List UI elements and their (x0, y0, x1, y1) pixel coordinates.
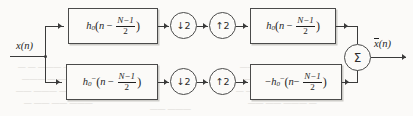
lower-synthesis-in-arrow (243, 79, 247, 85)
lower-upsampler-label: ↑2 (216, 76, 229, 87)
input-split-bus (45, 26, 46, 82)
summation-node[interactable]: Σ (344, 44, 371, 71)
sigma-icon: Σ (354, 51, 362, 65)
input-wire (10, 56, 46, 57)
lower-summer-in-arrow (345, 79, 349, 85)
lower-analysis-filter-block[interactable]: h0−(n − N−12) (66, 64, 158, 100)
upper-analysis-filter-block[interactable]: h0(n − N−12) (68, 8, 158, 44)
upper-synthesis-filter-expression: h0(n − N−12) (266, 16, 320, 36)
upper-upsampler-label: ↑2 (216, 20, 229, 31)
upper-upsampler-in-arrow (203, 23, 207, 29)
split-node-dot (44, 55, 47, 58)
input-label: x(n) (16, 40, 33, 51)
lower-downsampler-in-arrow (164, 79, 168, 85)
lower-upsampler-2[interactable]: ↑2 (209, 68, 236, 95)
lower-branch-arrow (56, 79, 60, 85)
upper-synthesis-in-arrow (243, 23, 247, 29)
lower-analysis-filter-expression: h0−(n − N−12) (83, 72, 141, 92)
lower-downsampler-2[interactable]: ↓2 (170, 68, 197, 95)
upper-downsampler-label: ↓2 (177, 20, 190, 31)
upper-summer-drop-wire (357, 26, 358, 44)
bleed-text: —— ——— (150, 104, 191, 113)
lower-downsampler-label: ↓2 (177, 76, 190, 87)
upper-synthesis-filter-block[interactable]: h0(n − N−12) (250, 8, 336, 44)
upper-downsampler-in-arrow (164, 23, 168, 29)
output-label: x(n) (374, 38, 391, 50)
upper-analysis-filter-expression: h0(n − N−12) (86, 16, 140, 36)
upper-upsampler-2[interactable]: ↑2 (209, 12, 236, 39)
lower-upsampler-in-arrow (203, 79, 207, 85)
upper-downsampler-2[interactable]: ↓2 (170, 12, 197, 39)
lower-synthesis-filter-expression: −h0−(n− N−12) (265, 72, 327, 92)
output-wire (371, 57, 406, 58)
upper-summer-in-arrow (344, 23, 348, 29)
output-arrow (402, 54, 406, 60)
upper-branch-arrow (58, 23, 62, 29)
lower-synthesis-filter-block[interactable]: −h0−(n− N−12) (250, 64, 342, 100)
filter-bank-diagram: — — ——— — —— ——— — —— —— —— ——— — ——— — … (0, 0, 413, 116)
